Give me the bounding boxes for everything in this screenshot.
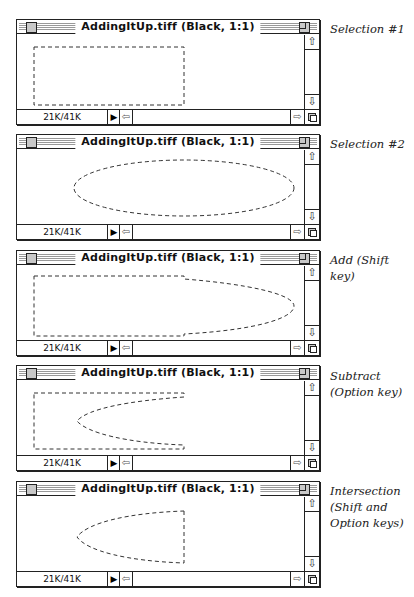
horizontal-scrollbar[interactable] <box>133 341 290 355</box>
zoom-box-icon[interactable] <box>299 137 310 148</box>
vertical-scrollbar[interactable]: ⇧ ⇩ <box>304 381 319 455</box>
window-title: AddingItUp.tiff (Black, 1:1) <box>75 482 260 496</box>
document-size[interactable]: 21K/41K <box>17 225 108 239</box>
vertical-scrollbar[interactable]: ⇧ ⇩ <box>304 497 319 571</box>
grow-box-icon[interactable] <box>304 225 319 239</box>
horizontal-scrollbar[interactable] <box>133 572 290 586</box>
close-box-icon[interactable] <box>26 484 37 495</box>
document-size[interactable]: 21K/41K <box>17 456 108 470</box>
document-size[interactable]: 21K/41K <box>17 341 108 355</box>
scroll-left-arrow-icon[interactable]: ⇦ <box>120 110 133 124</box>
image-canvas[interactable] <box>17 266 304 340</box>
grow-box-icon[interactable] <box>304 456 319 470</box>
image-canvas[interactable] <box>17 150 304 224</box>
rectangle-selection <box>17 35 304 109</box>
caption-selection-1: Selection #1 <box>330 21 414 37</box>
title-bar[interactable]: AddingItUp.tiff (Black, 1:1) <box>17 135 319 149</box>
caption-selection-2: Selection #2 <box>330 136 414 152</box>
scroll-right-arrow-icon[interactable]: ⇨ <box>290 572 304 586</box>
window-title: AddingItUp.tiff (Black, 1:1) <box>75 366 260 380</box>
status-bar: 21K/41K ▶ ⇦ ⇨ <box>17 455 319 470</box>
document-window-3: AddingItUp.tiff (Black, 1:1) ⇧ ⇩ 21K/41K… <box>16 250 320 356</box>
subtract-selection <box>17 381 304 455</box>
vertical-scrollbar[interactable]: ⇧ ⇩ <box>304 150 319 224</box>
status-bar: 21K/41K ▶ ⇦ ⇨ <box>17 109 319 124</box>
scroll-up-arrow-icon[interactable]: ⇧ <box>305 381 319 396</box>
caption-line: (Shift and <box>330 499 414 515</box>
scroll-up-arrow-icon[interactable]: ⇧ <box>305 150 319 165</box>
document-window-2: AddingItUp.tiff (Black, 1:1) ⇧ ⇩ 21K/41K… <box>16 134 320 240</box>
zoom-box-icon[interactable] <box>299 368 310 379</box>
scroll-left-arrow-icon[interactable]: ⇦ <box>120 572 133 586</box>
scroll-left-arrow-icon[interactable]: ⇦ <box>120 225 133 239</box>
window-title: AddingItUp.tiff (Black, 1:1) <box>75 251 260 265</box>
caption-subtract: Subtract (Option key) <box>330 368 414 400</box>
image-canvas[interactable] <box>17 497 304 571</box>
caption-line: Subtract <box>330 368 414 384</box>
scroll-left-arrow-icon[interactable]: ⇦ <box>120 456 133 470</box>
scroll-up-arrow-icon[interactable]: ⇧ <box>305 35 319 50</box>
ellipse-selection <box>17 150 304 224</box>
union-selection <box>17 266 304 340</box>
grow-box-icon[interactable] <box>304 341 319 355</box>
caption-intersection: Intersection (Shift and Option keys) <box>330 483 414 531</box>
image-canvas[interactable] <box>17 35 304 109</box>
document-size[interactable]: 21K/41K <box>17 572 108 586</box>
title-bar[interactable]: AddingItUp.tiff (Black, 1:1) <box>17 482 319 496</box>
scroll-right-arrow-icon[interactable]: ⇨ <box>290 110 304 124</box>
scroll-down-arrow-icon[interactable]: ⇩ <box>305 94 319 109</box>
intersection-selection <box>17 497 304 571</box>
triangle-icon[interactable]: ▶ <box>109 572 120 586</box>
status-bar: 21K/41K ▶ ⇦ ⇨ <box>17 340 319 355</box>
vertical-scrollbar[interactable]: ⇧ ⇩ <box>304 266 319 340</box>
scroll-down-arrow-icon[interactable]: ⇩ <box>305 325 319 340</box>
scroll-right-arrow-icon[interactable]: ⇨ <box>290 225 304 239</box>
triangle-icon[interactable]: ▶ <box>109 456 120 470</box>
document-window-4: AddingItUp.tiff (Black, 1:1) ⇧ ⇩ 21K/41K… <box>16 365 320 471</box>
caption-add: Add (Shift key) <box>330 252 414 284</box>
status-bar: 21K/41K ▶ ⇦ ⇨ <box>17 571 319 586</box>
horizontal-scrollbar[interactable] <box>133 456 290 470</box>
scroll-down-arrow-icon[interactable]: ⇩ <box>305 209 319 224</box>
scroll-right-arrow-icon[interactable]: ⇨ <box>290 456 304 470</box>
scroll-down-arrow-icon[interactable]: ⇩ <box>305 440 319 455</box>
caption-line: Option keys) <box>330 515 414 531</box>
caption-line: Intersection <box>330 483 414 499</box>
scroll-up-arrow-icon[interactable]: ⇧ <box>305 497 319 512</box>
status-bar: 21K/41K ▶ ⇦ ⇨ <box>17 224 319 239</box>
vertical-scrollbar[interactable]: ⇧ ⇩ <box>304 35 319 109</box>
image-canvas[interactable] <box>17 381 304 455</box>
title-bar[interactable]: AddingItUp.tiff (Black, 1:1) <box>17 366 319 380</box>
scroll-down-arrow-icon[interactable]: ⇩ <box>305 556 319 571</box>
grow-box-icon[interactable] <box>304 572 319 586</box>
horizontal-scrollbar[interactable] <box>133 110 290 124</box>
triangle-icon[interactable]: ▶ <box>109 225 120 239</box>
scroll-right-arrow-icon[interactable]: ⇨ <box>290 341 304 355</box>
document-size[interactable]: 21K/41K <box>17 110 108 124</box>
horizontal-scrollbar[interactable] <box>133 225 290 239</box>
grow-box-icon[interactable] <box>304 110 319 124</box>
zoom-box-icon[interactable] <box>299 22 310 33</box>
triangle-icon[interactable]: ▶ <box>109 341 120 355</box>
title-bar[interactable]: AddingItUp.tiff (Black, 1:1) <box>17 251 319 265</box>
caption-line: (Option key) <box>330 384 414 400</box>
scroll-left-arrow-icon[interactable]: ⇦ <box>120 341 133 355</box>
scroll-up-arrow-icon[interactable]: ⇧ <box>305 266 319 281</box>
zoom-box-icon[interactable] <box>299 253 310 264</box>
close-box-icon[interactable] <box>26 253 37 264</box>
triangle-icon[interactable]: ▶ <box>109 110 120 124</box>
document-window-1: AddingItUp.tiff (Black, 1:1) ⇧ ⇩ 21K/41K… <box>16 19 320 125</box>
document-window-5: AddingItUp.tiff (Black, 1:1) ⇧ ⇩ 21K/41K… <box>16 481 320 587</box>
close-box-icon[interactable] <box>26 137 37 148</box>
close-box-icon[interactable] <box>26 368 37 379</box>
window-title: AddingItUp.tiff (Black, 1:1) <box>75 20 260 34</box>
window-title: AddingItUp.tiff (Black, 1:1) <box>75 135 260 149</box>
zoom-box-icon[interactable] <box>299 484 310 495</box>
close-box-icon[interactable] <box>26 22 37 33</box>
title-bar[interactable]: AddingItUp.tiff (Black, 1:1) <box>17 20 319 34</box>
